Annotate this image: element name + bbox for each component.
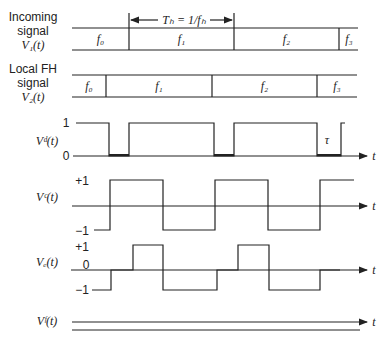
hop-period-arrow [129,13,234,28]
ve-waveform [71,245,367,290]
vf-waveform [72,322,367,330]
vd-waveform [73,123,367,156]
timing-diagram [0,0,387,346]
incoming-signal-bar [72,28,358,50]
vc-waveform [72,180,367,230]
local-fh-signal-bar [72,75,357,97]
